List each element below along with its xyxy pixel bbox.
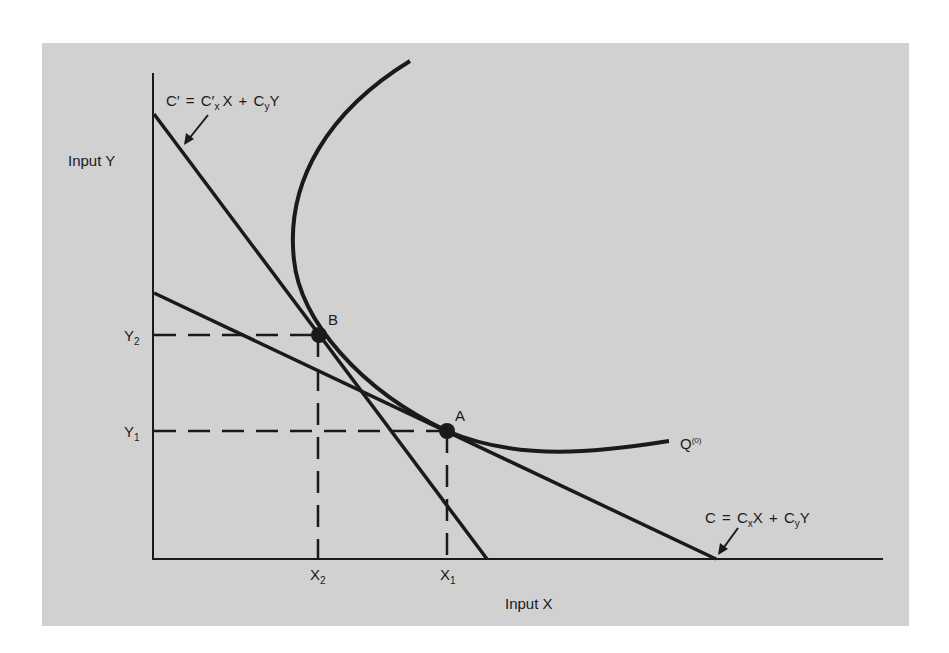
y1-tick-label: Y1 [124, 423, 140, 443]
point-b-label: B [328, 311, 338, 328]
y2-tick-label: Y2 [124, 327, 140, 347]
isoquant-curve [293, 61, 669, 452]
point-a-label: A [455, 407, 465, 424]
x2-tick-label: X2 [310, 566, 326, 586]
point-b-marker [311, 327, 327, 343]
original-cost-equation: C = CxX + CyY [705, 509, 810, 529]
new-cost-arrow [188, 115, 208, 140]
point-a-marker [439, 423, 455, 439]
x-axis-label: Input X [505, 595, 553, 612]
isoquant-diagram: Input Y Input X Y2 Y1 X2 X1 B A Q(0) C′ … [0, 0, 949, 653]
isoquant-label: Q(0) [680, 435, 702, 452]
y-axis-label: Input Y [68, 152, 115, 169]
new-cost-equation: C′ = C′xX + CyY [166, 92, 279, 112]
x1-tick-label: X1 [440, 566, 456, 586]
